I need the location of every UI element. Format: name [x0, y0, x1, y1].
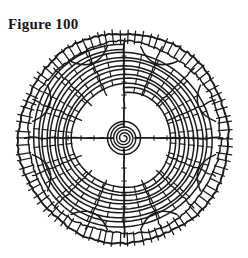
spiral-rung — [67, 105, 72, 108]
spiral-rung — [152, 95, 156, 100]
spiral-rung — [170, 133, 176, 134]
spiral-rung — [74, 109, 79, 112]
hub-spiral-thread — [111, 124, 136, 151]
frame-tick — [128, 30, 129, 43]
spiral-rung — [166, 162, 171, 165]
spiral-rung — [186, 99, 191, 102]
spiral-rung — [55, 75, 59, 79]
spiral-rung — [50, 130, 56, 131]
spiral-rung — [34, 129, 40, 130]
frame-tick — [190, 61, 199, 70]
spiral-rung — [86, 185, 90, 190]
spiral-rung — [70, 207, 74, 212]
spiral-rung — [171, 69, 175, 74]
spiral-rung — [206, 147, 212, 148]
frame-tick — [62, 50, 70, 61]
frame-tick — [185, 211, 193, 221]
spiral-rung — [151, 198, 153, 203]
spiral-rung — [183, 81, 187, 85]
spiral-rung — [156, 89, 160, 94]
spiral-rung — [179, 144, 185, 145]
spiral-rung — [172, 204, 176, 209]
spiral-rung — [60, 101, 65, 104]
spiral-rung — [188, 145, 194, 146]
spiral-rung — [158, 185, 162, 190]
spiral-rung — [197, 146, 203, 147]
frame-tick — [17, 145, 29, 146]
spiral-rung — [185, 193, 189, 197]
spiral-rung — [163, 191, 167, 196]
spiral-rung — [178, 104, 183, 107]
frame-tick — [218, 130, 232, 131]
spiral-rung — [67, 168, 72, 171]
spiral-rung — [86, 52, 88, 57]
spiral-rung — [44, 92, 49, 95]
spiral-rung — [74, 164, 79, 167]
spiral-rung — [68, 88, 72, 92]
spiral-rung — [165, 97, 169, 101]
spiral-rung — [81, 193, 85, 198]
frame-tick — [76, 223, 82, 234]
frame-tick — [174, 46, 181, 58]
spiral-rung — [75, 200, 79, 205]
frame-tick — [194, 201, 204, 210]
spiral-rung — [177, 87, 181, 91]
spiral-rung — [187, 131, 193, 132]
spiral-rung — [75, 94, 79, 98]
spiral-rung — [74, 69, 78, 74]
spiral-rung — [164, 112, 169, 115]
spiral-rung — [179, 188, 183, 192]
frame-tick — [43, 66, 53, 75]
spiral-rung — [189, 175, 194, 178]
spiral-rung — [52, 177, 57, 180]
spiral-rung — [173, 182, 177, 186]
spiral-rung — [171, 108, 176, 111]
frame-tick — [198, 71, 209, 80]
frame-tick — [180, 51, 188, 62]
spiral-rung — [58, 144, 64, 145]
spiral-rung — [174, 167, 179, 170]
orb-web-illustration — [0, 0, 248, 258]
spiral-rung — [66, 132, 72, 133]
spiral-rung — [59, 173, 64, 176]
frame-tick — [185, 55, 195, 67]
spiral-rung — [62, 190, 66, 194]
spiral-rung — [61, 82, 65, 86]
spiral-rung — [75, 178, 79, 182]
spiral-rung — [50, 145, 56, 146]
spiral-rung — [178, 132, 184, 133]
radial-spoke — [54, 68, 92, 105]
spiral-rung — [56, 195, 60, 199]
spiral-rung — [58, 131, 64, 132]
spiral-rung — [181, 171, 186, 174]
spiral-rung — [197, 130, 203, 131]
spiral-rung — [34, 147, 40, 148]
capture-spiral-threads — [34, 44, 213, 227]
frame-tick — [55, 56, 64, 66]
spiral-rung — [153, 178, 157, 183]
frame-tick — [194, 65, 204, 74]
spiral-rung — [91, 178, 95, 183]
spiral-rung — [161, 82, 165, 87]
spiral-rung — [79, 77, 83, 82]
spiral-rung — [69, 184, 73, 188]
spiral-rung — [85, 84, 89, 89]
figure-plate: Figure 100 — [0, 0, 248, 258]
spiral-rung — [42, 146, 48, 147]
spiral-rung — [167, 177, 171, 181]
spiral-rung — [206, 129, 212, 130]
spiral-rung — [170, 143, 176, 144]
spiral-rung — [52, 96, 57, 99]
spiral-rung — [90, 91, 94, 96]
spiral-rung — [167, 198, 171, 203]
spiral-rung — [42, 129, 48, 130]
spiral-rung — [171, 92, 175, 96]
frame-tick — [218, 121, 231, 123]
spiral-rung — [166, 76, 170, 81]
spiral-rung — [66, 143, 72, 144]
